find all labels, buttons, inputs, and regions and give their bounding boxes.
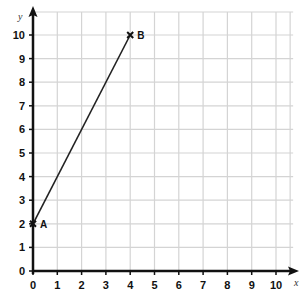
y-tick-label: 2: [19, 218, 25, 230]
x-tick-label: 4: [127, 279, 134, 291]
y-tick-label: 1: [19, 241, 25, 253]
x-tick-label: 2: [79, 279, 85, 291]
point-label-a: A: [40, 219, 47, 230]
point-label-b: B: [137, 30, 144, 41]
y-tick-label: 7: [19, 100, 25, 112]
y-tick-label: 6: [19, 123, 25, 135]
x-tick-label: 9: [249, 279, 255, 291]
y-axis-label: y: [17, 11, 23, 22]
y-tick-label: 8: [19, 76, 25, 88]
x-tick-label: 8: [224, 279, 230, 291]
x-tick-label: 10: [270, 279, 282, 291]
coordinate-grid-chart: 012345678910012345678910 AB x y: [0, 0, 301, 293]
axes: [29, 6, 300, 276]
x-tick-label: 1: [54, 279, 60, 291]
y-tick-label: 4: [19, 171, 26, 183]
x-tick-label: 5: [151, 279, 157, 291]
y-tick-label: 0: [19, 265, 25, 277]
y-tick-label: 3: [19, 194, 25, 206]
x-axis-label: x: [293, 277, 299, 288]
x-tick-label: 6: [176, 279, 182, 291]
y-tick-label: 9: [19, 53, 25, 65]
y-tick-label: 5: [19, 147, 25, 159]
tick-labels: 012345678910012345678910: [13, 29, 282, 291]
x-tick-label: 3: [103, 279, 109, 291]
x-tick-label: 7: [200, 279, 206, 291]
x-tick-label: 0: [30, 279, 36, 291]
y-tick-label: 10: [13, 29, 25, 41]
grid-lines: [33, 12, 293, 271]
